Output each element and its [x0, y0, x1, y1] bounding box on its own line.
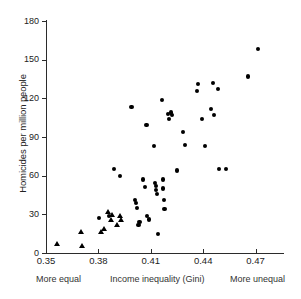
- data-point-circle: [118, 174, 122, 178]
- data-point-circle: [256, 47, 260, 51]
- scatter-chart-figure: Homicides per million people 03060901201…: [0, 0, 301, 299]
- data-point-circle: [224, 167, 228, 171]
- data-point-circle: [135, 206, 139, 210]
- data-point-circle: [141, 177, 145, 181]
- data-point-circle: [200, 117, 204, 121]
- data-point-circle: [183, 143, 187, 147]
- data-point-circle: [203, 144, 207, 148]
- x-tick-label: 0.44: [183, 256, 223, 266]
- data-point-circle: [217, 167, 221, 171]
- x-tick-label: 0.38: [78, 256, 118, 266]
- data-point-circle: [129, 105, 133, 109]
- data-point-circle: [147, 217, 151, 221]
- x-axis-label: Income inequality (Gini): [110, 275, 205, 284]
- y-tick-mark: [42, 98, 47, 99]
- data-point-triangle: [78, 229, 84, 234]
- axis-note-more-unequal: More unequal: [230, 275, 285, 284]
- data-point-circle: [97, 216, 101, 220]
- y-tick-label: 30: [9, 210, 39, 219]
- y-tick-mark: [42, 137, 47, 138]
- x-tick-mark: [203, 249, 204, 254]
- data-point-circle: [211, 81, 215, 85]
- y-tick-mark: [42, 214, 47, 215]
- y-tick-mark: [42, 21, 47, 22]
- data-point-circle: [167, 117, 171, 121]
- data-point-circle: [196, 82, 200, 86]
- data-point-circle: [112, 167, 116, 171]
- data-point-circle: [212, 113, 216, 117]
- data-point-triangle: [54, 241, 60, 246]
- data-point-circle: [134, 201, 138, 205]
- y-tick-label: 150: [9, 55, 39, 64]
- x-axis-line: [46, 253, 284, 254]
- data-point-circle: [152, 144, 156, 148]
- data-point-circle: [137, 220, 141, 224]
- y-tick-label: 60: [9, 171, 39, 180]
- data-point-circle: [216, 87, 220, 91]
- data-point-circle: [143, 185, 147, 189]
- y-tick-label: 180: [9, 17, 39, 26]
- y-tick-label: 90: [9, 133, 39, 142]
- data-point-circle: [175, 168, 179, 172]
- data-point-circle: [181, 130, 185, 134]
- data-point-triangle: [101, 226, 107, 231]
- data-point-circle: [156, 232, 160, 236]
- data-point-circle: [161, 177, 165, 181]
- data-point-triangle: [118, 217, 124, 222]
- y-tick-mark: [42, 176, 47, 177]
- data-point-circle: [162, 198, 166, 202]
- x-tick-mark: [46, 249, 47, 254]
- data-point-triangle: [79, 243, 85, 248]
- x-tick-mark: [98, 249, 99, 254]
- x-tick-label: 0.35: [26, 256, 66, 266]
- data-point-circle: [155, 192, 159, 196]
- data-point-triangle: [114, 222, 120, 227]
- data-point-circle: [246, 74, 250, 78]
- data-point-circle: [209, 107, 213, 111]
- data-point-circle: [170, 113, 174, 117]
- x-tick-mark: [256, 249, 257, 254]
- data-point-circle: [160, 98, 164, 102]
- data-point-circle: [107, 214, 111, 218]
- y-tick-label: 120: [9, 94, 39, 103]
- y-tick-mark: [42, 60, 47, 61]
- x-tick-mark: [151, 249, 152, 254]
- x-tick-label: 0.47: [236, 256, 276, 266]
- data-point-circle: [162, 207, 166, 211]
- x-tick-label: 0.41: [131, 256, 171, 266]
- data-point-circle: [195, 89, 199, 93]
- data-point-circle: [161, 186, 165, 190]
- axis-note-more-equal: More equal: [36, 275, 81, 284]
- data-point-circle: [144, 123, 148, 127]
